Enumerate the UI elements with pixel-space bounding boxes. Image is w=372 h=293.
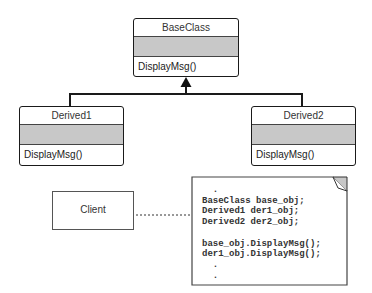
client-label: Client xyxy=(53,204,133,215)
class-name: BaseClass xyxy=(134,19,238,37)
code-note-text: . BaseClass base_obj; Derived1 der1_obj;… xyxy=(202,185,321,281)
class-name: Derived2 xyxy=(252,107,355,125)
class-method: DisplayMsg() xyxy=(20,145,123,161)
uml-diagram: BaseClass DisplayMsg() Derived1 DisplayM… xyxy=(0,0,372,293)
class-method: DisplayMsg() xyxy=(134,57,238,73)
generalization-arrowhead-icon xyxy=(181,77,192,87)
class-name: Derived1 xyxy=(20,107,123,125)
class-attributes-compartment xyxy=(20,125,123,145)
class-method: DisplayMsg() xyxy=(252,145,355,161)
client-box[interactable]: Client xyxy=(52,191,134,230)
class-box-baseclass[interactable]: BaseClass DisplayMsg() xyxy=(133,18,239,77)
class-attributes-compartment xyxy=(252,125,355,145)
class-box-derived2[interactable]: Derived2 DisplayMsg() xyxy=(251,106,356,166)
code-note[interactable]: . BaseClass base_obj; Derived1 der1_obj;… xyxy=(192,177,347,285)
class-attributes-compartment xyxy=(134,37,238,57)
class-box-derived1[interactable]: Derived1 DisplayMsg() xyxy=(19,106,124,166)
